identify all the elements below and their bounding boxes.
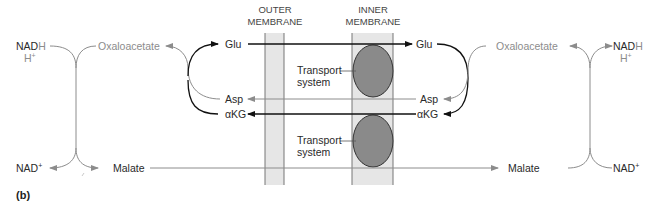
left-glu: Glu bbox=[225, 38, 241, 50]
outer-label-line1: OUTER bbox=[240, 4, 310, 16]
right-glu: Glu bbox=[416, 38, 432, 50]
left-malate: Malate bbox=[113, 162, 145, 174]
outer-membrane-label: OUTER MEMBRANE bbox=[240, 4, 310, 28]
right-nad: NAD+ bbox=[613, 162, 639, 174]
left-akg: αKG bbox=[225, 108, 246, 120]
inner-label-line1: INNER bbox=[338, 4, 408, 16]
transport-system-bottom-label: Transport system bbox=[297, 134, 342, 158]
right-oxaloacetate: Oxaloacetate bbox=[496, 40, 558, 52]
right-malate: Malate bbox=[508, 162, 540, 174]
transport-system-top-label: Transport system bbox=[297, 64, 342, 88]
right-nadh: NADH bbox=[613, 40, 643, 52]
right-hplus: H+ bbox=[620, 52, 632, 64]
left-hplus: H+ bbox=[24, 52, 36, 64]
left-nadh: NADH bbox=[16, 40, 46, 52]
outer-label-line2: MEMBRANE bbox=[240, 16, 310, 28]
panel-label: (b) bbox=[16, 189, 30, 201]
left-asp: Asp bbox=[225, 93, 243, 105]
right-asp: Asp bbox=[420, 93, 438, 105]
transporter-top bbox=[353, 45, 393, 97]
left-oxaloacetate: Oxaloacetate bbox=[98, 40, 160, 52]
inner-membrane-label: INNER MEMBRANE bbox=[338, 4, 408, 28]
inner-label-line2: MEMBRANE bbox=[338, 16, 408, 28]
left-nad: NAD+ bbox=[16, 162, 42, 174]
right-akg: αKG bbox=[417, 108, 438, 120]
diagram-canvas bbox=[0, 0, 649, 205]
transporter-bottom bbox=[353, 115, 393, 167]
outer-membrane bbox=[265, 33, 284, 185]
